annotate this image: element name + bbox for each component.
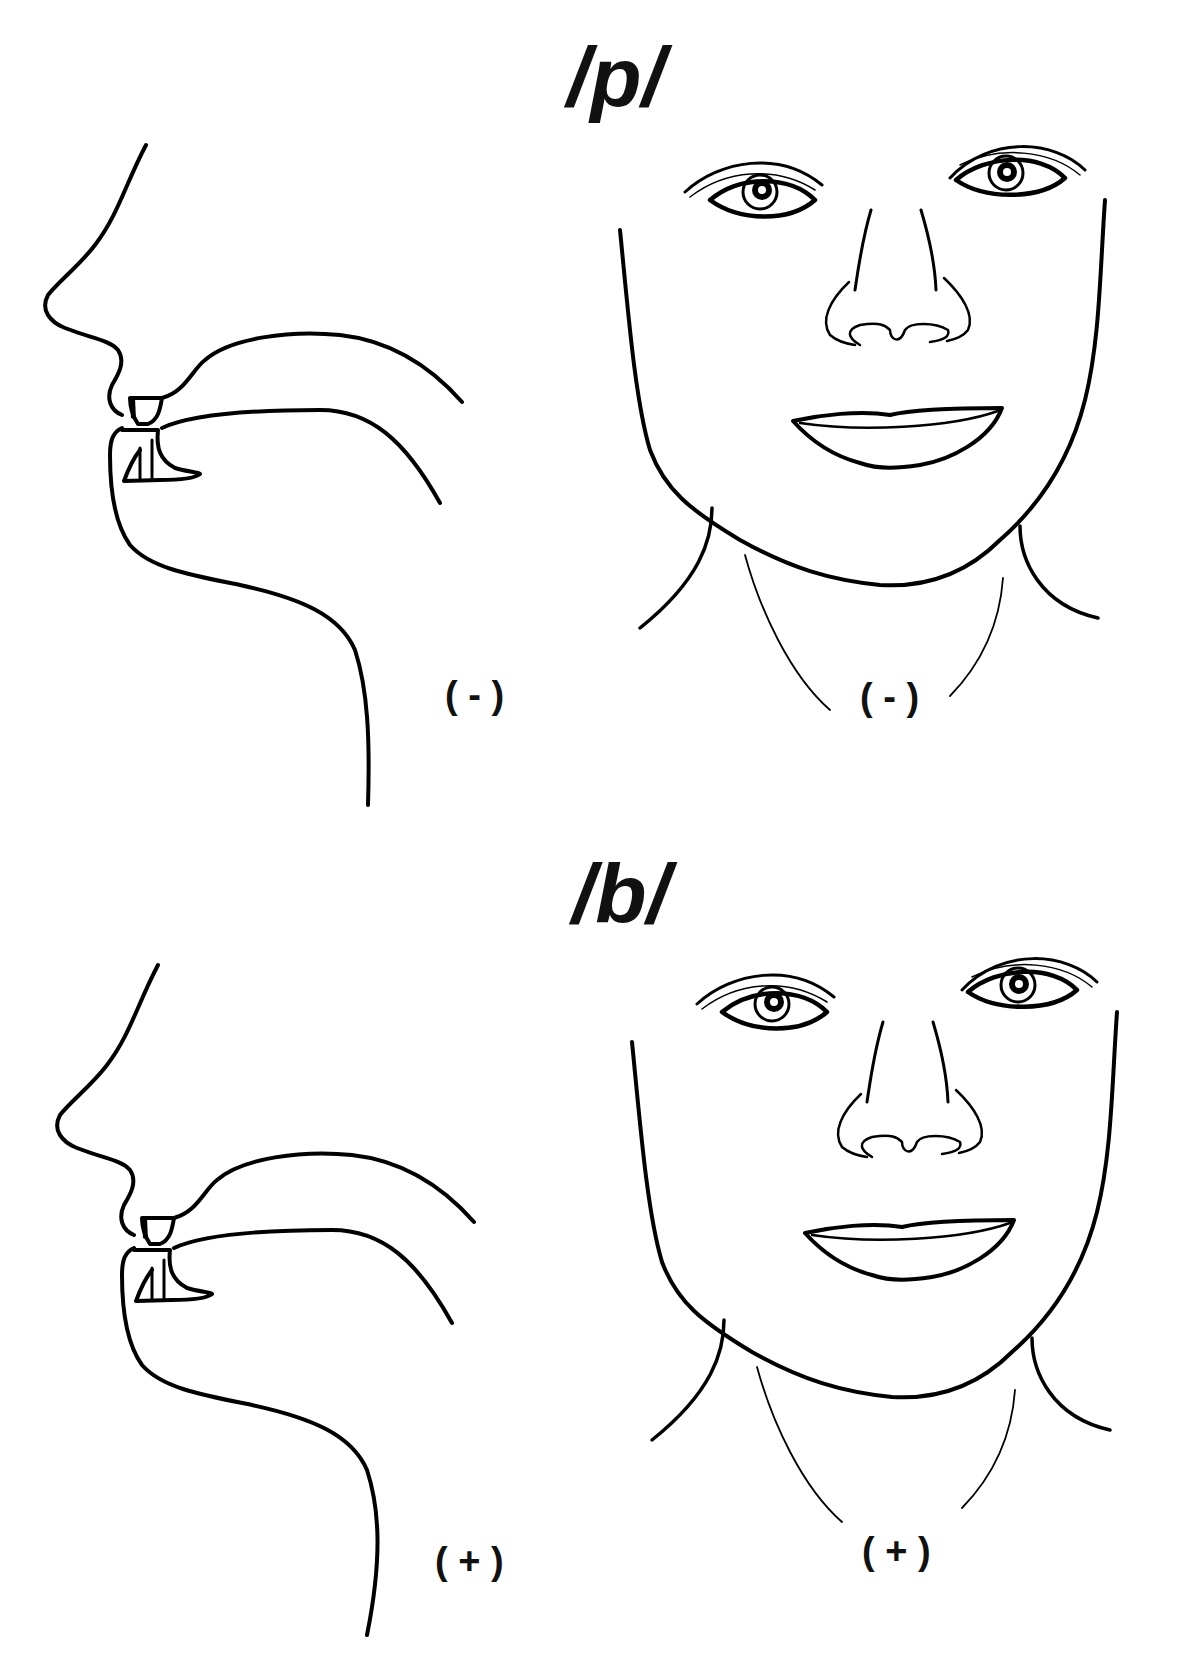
diagram-art [0,0,1192,1680]
front-voicing-label-b: ( + ) [862,1532,931,1570]
front-face-p [620,147,1105,710]
front-face-b [632,959,1117,1522]
profile-head-p [45,145,462,805]
profile-head-b [57,965,474,1635]
profile-voicing-label-p: ( - ) [445,676,504,714]
front-voicing-label-p: ( - ) [860,678,919,716]
profile-voicing-label-b: ( + ) [435,1542,504,1580]
phoneme-title-b: /b/ [0,852,1192,936]
